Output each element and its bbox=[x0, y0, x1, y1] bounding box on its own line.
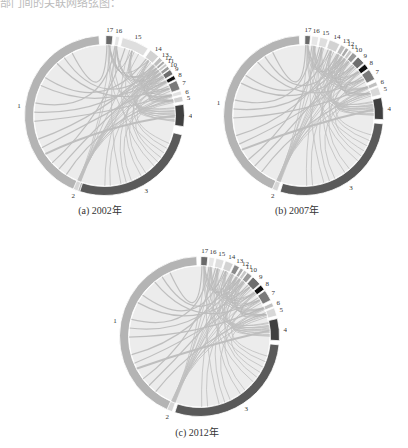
segment-label: 16 bbox=[313, 28, 321, 35]
segment-17 bbox=[201, 257, 208, 266]
segment-label: 3 bbox=[245, 405, 249, 413]
segment-label: 16 bbox=[115, 28, 123, 35]
segment-label: 1 bbox=[113, 317, 117, 325]
segment-16 bbox=[208, 257, 215, 267]
segment-label: 8 bbox=[266, 280, 270, 288]
chord-diagram: 1234567891011121314151617 bbox=[216, 28, 391, 203]
segment-label: 3 bbox=[349, 184, 353, 192]
segment-label: 17 bbox=[201, 249, 209, 255]
chord-chart-2002: 1234567891011121314151617 bbox=[17, 28, 192, 203]
segment-17 bbox=[106, 36, 113, 45]
clipped-header-text: 部门间的关联网络弦图： bbox=[0, 0, 121, 10]
chord-diagram: 1234567891011121314151617 bbox=[17, 28, 192, 203]
segment-label: 17 bbox=[106, 28, 114, 34]
caption-2012: (c) 2012年 bbox=[137, 424, 257, 439]
segment-label: 4 bbox=[189, 112, 192, 120]
segment-label: 8 bbox=[370, 59, 374, 67]
segment-label: 4 bbox=[387, 105, 391, 113]
segment-label: 4 bbox=[283, 326, 287, 334]
segment-label: 6 bbox=[185, 88, 189, 96]
segment-label: 9 bbox=[364, 52, 368, 60]
segment-label: 3 bbox=[144, 187, 148, 195]
segment-label: 2 bbox=[271, 192, 275, 200]
segment-17 bbox=[305, 36, 311, 45]
segment-label: 7 bbox=[271, 289, 275, 297]
segment-16 bbox=[311, 36, 319, 46]
segment-label: 13 bbox=[162, 51, 170, 59]
segment-16 bbox=[114, 36, 119, 46]
segment-label: 6 bbox=[381, 78, 385, 86]
segment-4 bbox=[373, 98, 384, 120]
segment-label: 13 bbox=[236, 257, 244, 265]
caption-2007: (b) 2007年 bbox=[237, 202, 357, 217]
segment-15 bbox=[318, 37, 328, 48]
segment-label: 14 bbox=[228, 253, 236, 261]
caption-2002: (a) 2002年 bbox=[40, 202, 160, 217]
segment-label: 7 bbox=[375, 68, 379, 76]
segment-label: 2 bbox=[166, 413, 170, 421]
segment-label: 1 bbox=[217, 99, 221, 107]
segment-label: 1 bbox=[17, 102, 21, 110]
segment-label: 14 bbox=[334, 33, 342, 41]
segment-label: 17 bbox=[305, 28, 313, 34]
chord-chart-2007: 1234567891011121314151617 bbox=[216, 28, 391, 203]
segment-label: 5 bbox=[384, 85, 388, 93]
segment-label: 15 bbox=[322, 29, 330, 37]
segment-label: 13 bbox=[343, 37, 351, 45]
segment-label: 15 bbox=[218, 250, 226, 258]
segment-label: 5 bbox=[280, 306, 284, 314]
segment-label: 2 bbox=[72, 192, 76, 200]
segment-5 bbox=[173, 96, 183, 103]
segment-label: 6 bbox=[277, 299, 281, 307]
segment-4 bbox=[175, 104, 185, 126]
segment-15 bbox=[214, 258, 224, 269]
chord-chart-2012: 1234567891011121314151617 bbox=[112, 249, 287, 424]
segment-label: 15 bbox=[135, 33, 143, 41]
segment-label: 9 bbox=[259, 273, 263, 281]
chord-diagram: 1234567891011121314151617 bbox=[112, 249, 287, 424]
segment-label: 8 bbox=[178, 71, 182, 79]
segment-label: 7 bbox=[182, 79, 186, 87]
segment-label: 16 bbox=[209, 249, 217, 256]
segment-label: 14 bbox=[155, 45, 163, 53]
segment-4 bbox=[269, 319, 280, 341]
